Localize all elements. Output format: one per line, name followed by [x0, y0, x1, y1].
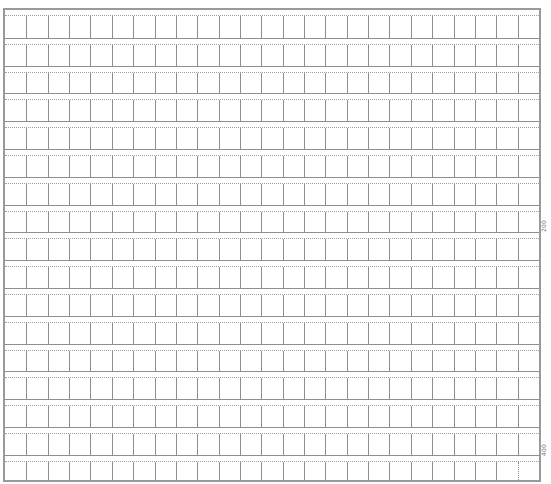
grid-cell: [454, 351, 475, 371]
grid-cell: [496, 212, 517, 232]
grid-cell: [475, 212, 496, 232]
grid-row: [5, 38, 539, 66]
grid-cell: [90, 184, 111, 205]
grid-cell: [48, 351, 69, 371]
grid-cell: [197, 128, 218, 149]
grid-cell: [155, 295, 176, 316]
grid-cell: [48, 434, 69, 455]
grid-cell: [176, 462, 197, 480]
grid-cell: [475, 128, 496, 149]
grid-cell: [155, 239, 176, 260]
grid-cell: [389, 128, 410, 149]
grid-cell: [240, 267, 261, 288]
grid-cell: [347, 462, 368, 480]
grid-cell: [48, 406, 69, 427]
grid-cell: [133, 434, 154, 455]
grid-cell: [5, 212, 26, 232]
grid-cell: [496, 434, 517, 455]
grid-cell: [475, 16, 496, 38]
grid-cell: [48, 100, 69, 121]
grid-cell: [240, 100, 261, 121]
grid-cell: [26, 128, 47, 149]
grid-cell: [261, 156, 282, 177]
grid-cell: [69, 267, 90, 288]
grid-cell: [368, 100, 389, 121]
grid-cell: [176, 267, 197, 288]
grid-cell: [475, 434, 496, 455]
grid-cell: [5, 128, 26, 149]
grid-cell: [26, 295, 47, 316]
grid-cell: [5, 156, 26, 177]
grid-cell: [454, 212, 475, 232]
grid-row: [5, 371, 539, 399]
grid-cell: [155, 45, 176, 66]
grid-cell: [389, 100, 410, 121]
grid-cell: [26, 100, 47, 121]
grid-row: [5, 260, 539, 288]
grid-cell: [90, 128, 111, 149]
grid-cell: [304, 295, 325, 316]
grid-row: [5, 93, 539, 121]
grid-cell: [475, 295, 496, 316]
grid-cell: [325, 406, 346, 427]
grid-cell: [325, 434, 346, 455]
grid-cell: [219, 16, 240, 38]
grid-cell: [112, 378, 133, 399]
grid-cell: [219, 434, 240, 455]
grid-cell: [475, 239, 496, 260]
grid-cell: [112, 184, 133, 205]
grid-cell: [69, 406, 90, 427]
grid-row: [5, 149, 539, 177]
grid-cell: [368, 45, 389, 66]
grid-cell: [261, 378, 282, 399]
grid-cell: [496, 45, 517, 66]
grid-cell: [48, 239, 69, 260]
grid-cell: [518, 156, 539, 177]
grid-cell: [112, 434, 133, 455]
grid-cell: [304, 462, 325, 480]
grid-cell: [304, 406, 325, 427]
grid-cell: [283, 16, 304, 38]
grid-cell: [90, 406, 111, 427]
grid-cell: [454, 100, 475, 121]
grid-cell: [69, 239, 90, 260]
grid-cell: [48, 16, 69, 38]
grid-cell: [518, 267, 539, 288]
grid-cell: [176, 45, 197, 66]
grid-cell: [69, 351, 90, 371]
grid-row: [5, 455, 539, 480]
grid-cell: [261, 267, 282, 288]
grid-cell: [475, 267, 496, 288]
grid-cell: [368, 184, 389, 205]
grid-cell: [347, 434, 368, 455]
grid-cell: [240, 462, 261, 480]
grid-cell: [304, 267, 325, 288]
grid-cell: [518, 239, 539, 260]
grid-row: [5, 316, 539, 344]
grid-cell: [496, 295, 517, 316]
grid-cell: [5, 45, 26, 66]
grid-cell: [518, 378, 539, 399]
grid-cell: [432, 323, 453, 344]
grid-cell: [389, 45, 410, 66]
grid-cell: [304, 212, 325, 232]
grid-cell: [240, 406, 261, 427]
grid-row: [5, 177, 539, 205]
grid-cell: [90, 295, 111, 316]
grid-cell: [26, 73, 47, 93]
grid-cell: [432, 212, 453, 232]
grid-cell: [48, 73, 69, 93]
grid-cell: [197, 406, 218, 427]
grid-cell: [325, 239, 346, 260]
grid-cell: [176, 156, 197, 177]
grid-cell: [197, 323, 218, 344]
grid-cell: [496, 267, 517, 288]
grid-cell: [304, 156, 325, 177]
grid-cell: [112, 267, 133, 288]
grid-cell: [219, 45, 240, 66]
grid-cell: [325, 73, 346, 93]
grid-cell: [432, 378, 453, 399]
grid-cell: [389, 16, 410, 38]
grid-cell: [133, 406, 154, 427]
grid-cell: [475, 45, 496, 66]
